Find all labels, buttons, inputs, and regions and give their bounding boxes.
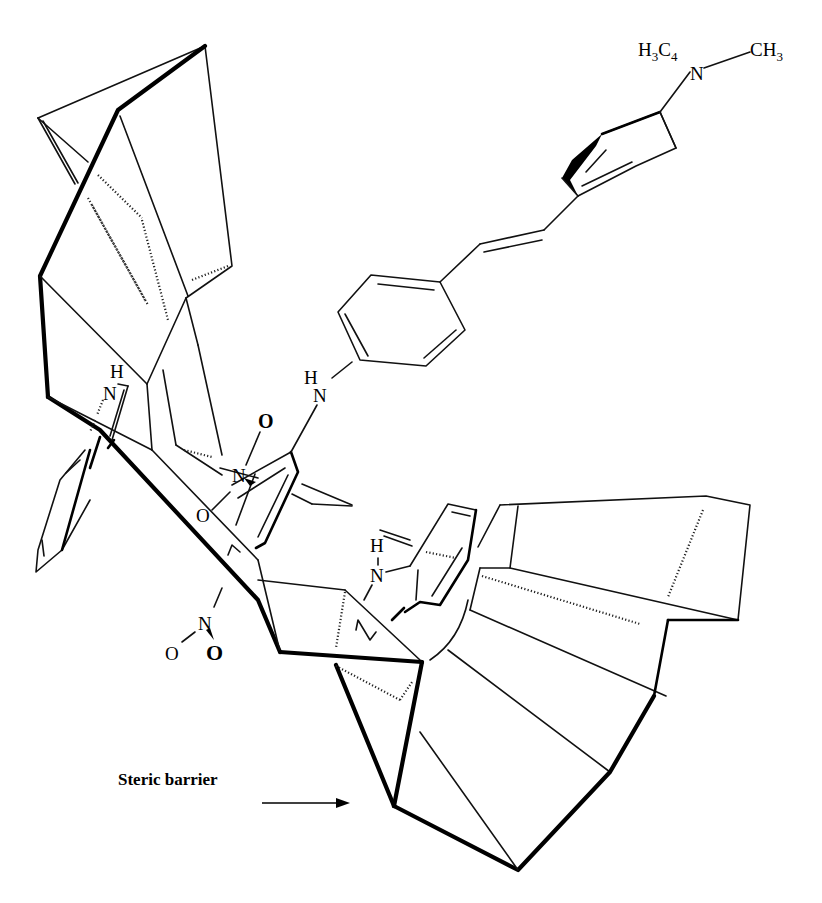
- steric-barrier-label: Steric barrier: [118, 770, 218, 790]
- upper-n-label: N: [313, 385, 327, 406]
- h3c4-label: H3C4: [638, 39, 678, 64]
- nitro-upper-o1-label: O: [258, 410, 274, 432]
- right-upper-wall: [470, 496, 750, 696]
- nitro-lower-o2-label: O: [206, 640, 223, 665]
- right-arrow-icon: [336, 798, 350, 808]
- lower-left-benzene: [36, 437, 100, 572]
- lower-right-wall: [336, 600, 654, 870]
- lower-nh-group: H N: [364, 530, 412, 600]
- lower-h-label: H: [370, 535, 384, 556]
- left-diagonal-edge: [48, 397, 422, 662]
- amine-n-label: N: [690, 63, 704, 84]
- lower-nitro-group: N O O: [165, 545, 240, 665]
- left-h-label: H: [110, 361, 124, 382]
- nitro-lower-o1-label: O: [165, 643, 179, 664]
- nitro-lower-n-label: N: [198, 613, 212, 634]
- stilbene-vinyl-bridge: [440, 196, 578, 282]
- steric-barrier-arrow: [262, 798, 350, 808]
- dimethylamino-group: H3C4 N CH3: [638, 39, 783, 84]
- lower-n-label: N: [370, 565, 384, 586]
- molecular-diagram: H N H N O N O N O O: [0, 0, 822, 903]
- stilbene-lower-ring: [338, 275, 465, 366]
- ch3-label: CH3: [750, 39, 783, 64]
- stilbene-upper-ring: [562, 72, 690, 196]
- nitro-upper-n-label: N: [232, 465, 246, 486]
- nitro-upper-o2-label: O: [196, 505, 210, 526]
- left-n-label: N: [103, 383, 117, 404]
